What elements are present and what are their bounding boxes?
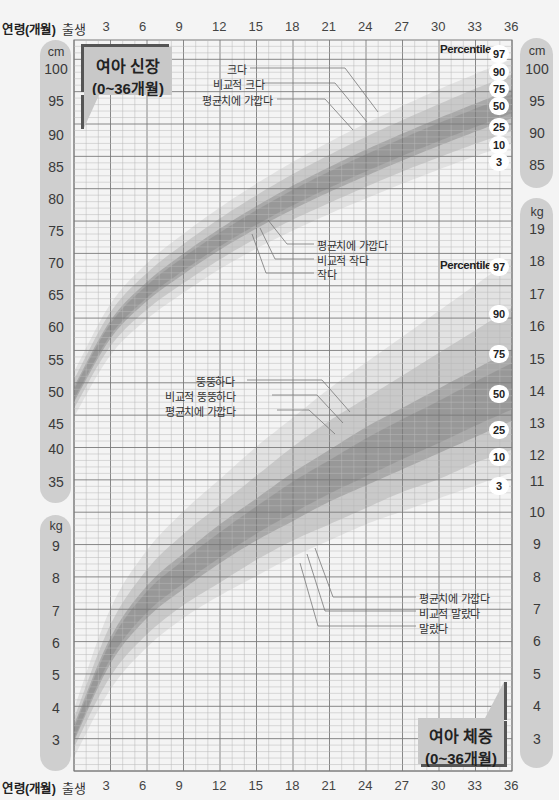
weight-left-tick-7: 7	[36, 603, 76, 619]
weight-left-tick-5: 5	[36, 667, 76, 683]
weight-right-tick-12: 12	[517, 447, 557, 463]
x-tick-21: 21	[322, 19, 336, 34]
x-tick-33: 33	[468, 778, 482, 793]
weight-right-tick-19: 19	[517, 221, 557, 237]
age-months-label: 연령(개월)	[2, 19, 55, 38]
weight-title-tail	[484, 680, 510, 720]
annotation-fairly-tall: 비교적 크다	[213, 76, 264, 92]
height-left-tick-95: 95	[36, 93, 76, 109]
height-left-tick-100: 100	[36, 61, 76, 77]
weight-right-tick-14: 14	[517, 383, 557, 399]
height-percentile-97: 97	[489, 45, 509, 63]
weight-percentile-3: 3	[489, 477, 509, 495]
weight-right-tick-3: 3	[517, 731, 557, 747]
height-percentile-10: 10	[489, 136, 509, 154]
x-tick-15: 15	[249, 19, 263, 34]
weight-right-tick-16: 16	[517, 318, 557, 334]
weight-percentile-75: 75	[489, 345, 509, 363]
height-title-line1: 여아 신장	[84, 47, 172, 77]
height-left-tick-55: 55	[36, 352, 76, 368]
annotation-near-average-top: 평균치에 가깝다	[202, 92, 273, 108]
weight-title-line2: (0~36개월)	[418, 747, 504, 768]
weight-left-tick-8: 8	[36, 570, 76, 586]
height-left-tick-40: 40	[36, 441, 76, 457]
x-tick-21: 21	[322, 778, 336, 793]
x-tick-15: 15	[249, 778, 263, 793]
weight-right-tick-17: 17	[517, 286, 557, 302]
height-left-tick-35: 35	[36, 474, 76, 490]
x-tick-36: 36	[504, 19, 518, 34]
annotation-near-average-w-top: 평균치에 가깝다	[165, 403, 236, 419]
weight-right-tick-6: 6	[517, 633, 557, 649]
height-left-tick-75: 75	[36, 223, 76, 239]
weight-right-tick-7: 7	[517, 601, 557, 617]
height-left-tick-65: 65	[36, 287, 76, 303]
x-tick-27: 27	[395, 19, 409, 34]
x-tick-30: 30	[431, 778, 445, 793]
x-tick-6: 6	[139, 778, 146, 793]
annotation-short: 작다	[317, 266, 336, 282]
annotation-fairly-heavy: 비교적 뚱뚱하다	[165, 388, 236, 404]
annotation-fairly-thin: 비교적 말랐다	[419, 605, 480, 621]
weight-right-tick-13: 13	[517, 415, 557, 431]
x-tick-33: 33	[468, 19, 482, 34]
weight-percentile-10: 10	[489, 448, 509, 466]
x-tick-12: 12	[212, 19, 226, 34]
annotation-near-average-w-bottom: 평균치에 가깝다	[419, 590, 490, 606]
weight-left-tick-4: 4	[36, 700, 76, 716]
weight-right-tick-15: 15	[517, 351, 557, 367]
annotation-heavy: 뚱뚱하다	[196, 373, 235, 389]
height-percentile-title: Percentile	[440, 43, 491, 55]
weight-title-line1: 여아 체중	[418, 718, 504, 747]
weight-left-tick-6: 6	[36, 635, 76, 651]
height-percentile-90: 90	[489, 63, 509, 81]
x-tick-6: 6	[139, 19, 146, 34]
weight-right-tick-10: 10	[517, 504, 557, 520]
height-right-tick-85: 85	[517, 157, 557, 173]
height-left-tick-50: 50	[36, 384, 76, 400]
annotation-thin: 말랐다	[419, 620, 448, 636]
weight-left-tick-9: 9	[36, 538, 76, 554]
height-left-axis-pill	[40, 40, 71, 503]
x-tick-18: 18	[285, 778, 299, 793]
annotation-near-average-bottom: 평균치에 가깝다	[317, 237, 388, 253]
weight-left-tick-3: 3	[36, 732, 76, 748]
height-right-tick-95: 95	[517, 93, 557, 109]
height-left-tick-80: 80	[36, 191, 76, 207]
x-tick-24: 24	[358, 778, 372, 793]
weight-right-tick-8: 8	[517, 569, 557, 585]
x-tick-27: 27	[395, 778, 409, 793]
birth-label: 출생	[62, 19, 86, 38]
height-percentile-3: 3	[489, 153, 509, 171]
weight-right-tick-18: 18	[517, 253, 557, 269]
height-left-tick-60: 60	[36, 319, 76, 335]
height-left-unit: cm	[36, 45, 76, 59]
weight-percentile-25: 25	[489, 421, 509, 439]
weight-chart-title: 여아 체중 (0~36개월)	[418, 718, 504, 764]
x-tick-3: 3	[103, 778, 110, 793]
birth-label-bottom: 출생	[62, 778, 86, 797]
x-tick-30: 30	[431, 19, 445, 34]
height-right-tick-90: 90	[517, 125, 557, 141]
x-tick-3: 3	[103, 19, 110, 34]
height-right-unit: cm	[517, 44, 557, 58]
weight-right-tick-9: 9	[517, 536, 557, 552]
weight-percentile-title: Percentile	[440, 259, 491, 271]
x-tick-36: 36	[504, 778, 518, 793]
height-chart-title: 여아 신장 (0~36개월)	[84, 47, 172, 95]
weight-left-unit: kg	[36, 519, 76, 533]
height-title-tail	[81, 95, 101, 131]
height-percentile-75: 75	[489, 80, 509, 98]
weight-percentile-97: 97	[489, 258, 509, 276]
weight-right-tick-4: 4	[517, 698, 557, 714]
height-left-tick-70: 70	[36, 255, 76, 271]
age-months-label-bottom: 연령(개월)	[2, 778, 55, 797]
weight-right-tick-5: 5	[517, 666, 557, 682]
height-left-tick-90: 90	[36, 127, 76, 143]
height-right-tick-100: 100	[517, 61, 557, 77]
x-tick-18: 18	[285, 19, 299, 34]
weight-percentile-50: 50	[489, 385, 509, 403]
weight-right-unit: kg	[517, 205, 557, 219]
x-tick-24: 24	[358, 19, 372, 34]
height-percentile-50: 50	[489, 97, 509, 115]
